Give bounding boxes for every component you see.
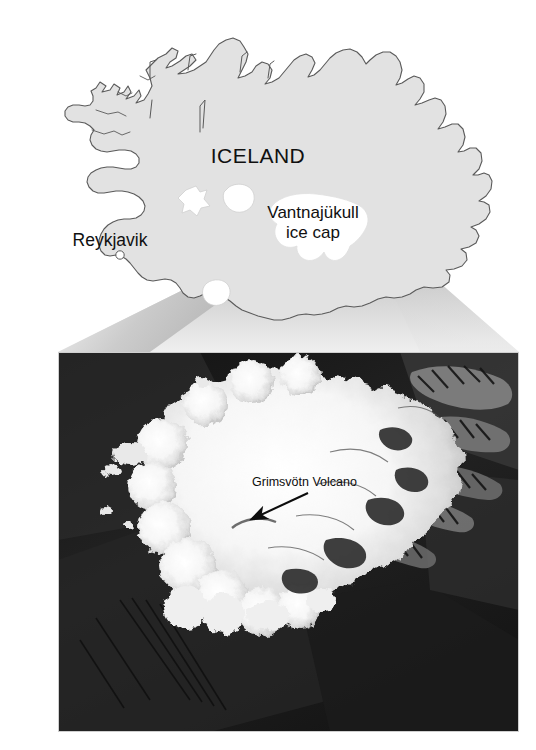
satellite-photo-inset: Grimsvötn Volcano <box>0 0 536 750</box>
iceland-vatnajokull-figure: ICELAND Reykjavik Vantnajükull ice cap <box>0 0 536 750</box>
grimsvotn-volcano-caption: Grimsvötn Volcano <box>252 475 357 489</box>
